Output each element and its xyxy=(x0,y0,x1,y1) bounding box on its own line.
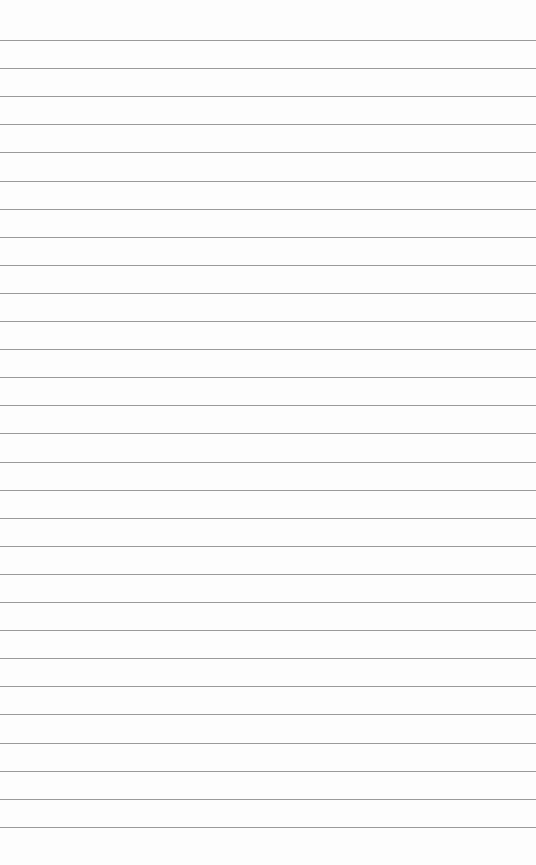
ruled-line xyxy=(0,68,536,69)
ruled-line xyxy=(0,96,536,97)
ruled-line xyxy=(0,574,536,575)
ruled-line xyxy=(0,658,536,659)
ruled-line xyxy=(0,630,536,631)
ruled-line xyxy=(0,377,536,378)
ruled-line xyxy=(0,237,536,238)
ruled-line xyxy=(0,546,536,547)
ruled-line xyxy=(0,827,536,828)
ruled-line xyxy=(0,490,536,491)
ruled-line xyxy=(0,602,536,603)
ruled-line xyxy=(0,433,536,434)
ruled-line xyxy=(0,321,536,322)
ruled-line xyxy=(0,714,536,715)
ruled-line xyxy=(0,124,536,125)
ruled-line xyxy=(0,181,536,182)
ruled-line xyxy=(0,40,536,41)
ruled-line xyxy=(0,799,536,800)
ruled-line xyxy=(0,462,536,463)
ruled-line xyxy=(0,686,536,687)
ruled-line xyxy=(0,349,536,350)
ruled-line xyxy=(0,265,536,266)
ruled-line xyxy=(0,405,536,406)
ruled-line xyxy=(0,209,536,210)
ruled-line xyxy=(0,293,536,294)
ruled-line xyxy=(0,152,536,153)
ruled-line xyxy=(0,743,536,744)
ruled-line xyxy=(0,771,536,772)
ruled-line xyxy=(0,518,536,519)
